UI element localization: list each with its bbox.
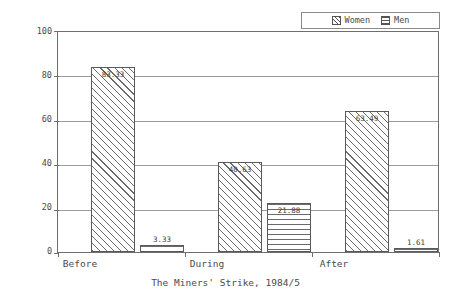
x-category-label-during: During <box>162 258 252 269</box>
x-tick-mark-2 <box>312 252 313 257</box>
y-tick-mark-20 <box>54 210 59 211</box>
bar-men-after: 1.61 <box>394 248 438 252</box>
y-tick-label-20: 20 <box>26 203 52 212</box>
y-tick-label-100: 100 <box>26 27 52 36</box>
y-tick-label-80: 80 <box>26 71 52 80</box>
bar-men-before: 3.33 <box>140 245 184 252</box>
y-tick-label-60: 60 <box>26 115 52 124</box>
y-tick-label-0: 0 <box>26 247 52 256</box>
legend-entry-women: Women <box>332 16 371 25</box>
x-tick-mark-3 <box>439 252 440 257</box>
bar-chart: Women Men Percent: Did all or most 100 8… <box>0 0 451 308</box>
plot-area: 83.33 3.33 40.63 21.88 63.49 1.61 <box>57 31 439 253</box>
x-tick-mark-0 <box>58 252 59 257</box>
bar-women-during: 40.63 <box>218 162 262 252</box>
bar-value-women-before: 83.33 <box>102 71 125 79</box>
bar-women-after: 63.49 <box>345 111 389 252</box>
y-tick-mark-60 <box>54 121 59 122</box>
diagonal-hatch-swatch-icon <box>332 16 341 25</box>
bar-value-women-after: 63.49 <box>356 115 379 123</box>
bar-value-men-during: 21.88 <box>278 207 301 215</box>
legend-label-women: Women <box>345 16 371 25</box>
chart-legend: Women Men <box>301 12 440 29</box>
y-tick-label-40: 40 <box>26 159 52 168</box>
x-category-label-before: Before <box>35 258 125 269</box>
y-tick-mark-100 <box>54 31 59 32</box>
bar-value-women-during: 40.63 <box>229 166 252 174</box>
x-tick-mark-1 <box>185 252 186 257</box>
bar-men-during: 21.88 <box>267 203 311 252</box>
bar-value-men-after: 1.61 <box>407 239 425 247</box>
legend-label-men: Men <box>394 16 409 25</box>
x-category-label-after: After <box>289 258 379 269</box>
bar-women-before: 83.33 <box>91 67 135 252</box>
legend-entry-men: Men <box>381 16 409 25</box>
x-axis-label: The Miners' Strike, 1984/5 <box>0 277 451 288</box>
horizontal-hatch-swatch-icon <box>381 16 390 25</box>
y-tick-mark-80 <box>54 76 59 77</box>
y-tick-mark-40 <box>54 165 59 166</box>
bar-value-men-before: 3.33 <box>153 236 171 244</box>
